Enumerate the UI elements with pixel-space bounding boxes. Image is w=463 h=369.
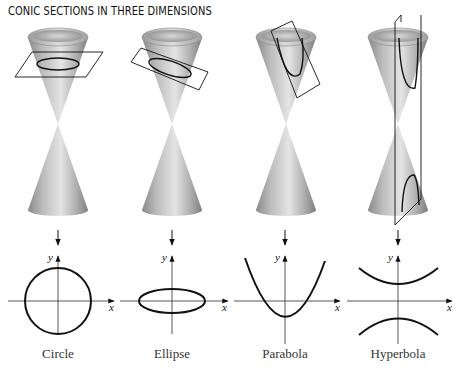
hyperbola-label: Hyperbola xyxy=(348,346,448,362)
hyperbola-x-label: x xyxy=(446,301,452,313)
ellipse-y-label: y xyxy=(161,251,167,263)
parabola-cone xyxy=(256,21,320,216)
hyperbola-graph xyxy=(347,256,452,344)
parabola-label: Parabola xyxy=(235,346,335,362)
circle-x-label: x xyxy=(108,301,114,313)
parabola-graph xyxy=(234,256,340,344)
ellipse-x-label: x xyxy=(221,301,227,313)
conic-sections-diagram: y x y x y x y x xyxy=(0,0,463,369)
parabola-y-label: y xyxy=(274,251,280,263)
ellipse-label: Ellipse xyxy=(122,346,222,362)
circle-y-label: y xyxy=(47,251,53,263)
parabola-x-label: x xyxy=(334,301,340,313)
ellipse-cone xyxy=(131,28,208,216)
hyperbola-y-label: y xyxy=(387,251,393,263)
hyperbola-cone xyxy=(368,15,428,225)
circle-graph xyxy=(8,256,114,334)
circle-cone xyxy=(15,28,103,216)
circle-label: Circle xyxy=(8,346,108,362)
ellipse-graph xyxy=(120,256,228,334)
down-arrows xyxy=(58,230,398,245)
